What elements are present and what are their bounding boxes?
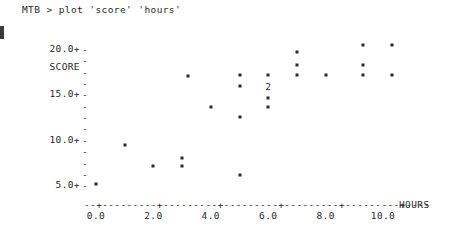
data-point bbox=[238, 73, 241, 76]
data-point bbox=[186, 74, 189, 77]
data-point bbox=[267, 73, 270, 76]
x-axis-line: --+---------+---------+---------+-------… bbox=[84, 199, 430, 210]
data-point bbox=[181, 164, 184, 167]
data-point bbox=[295, 73, 298, 76]
y-axis-title: SCORE bbox=[20, 61, 80, 72]
x-axis-tick-label: 0.0 bbox=[87, 210, 105, 221]
data-point bbox=[209, 105, 212, 108]
data-point-overlap: 2 bbox=[265, 82, 271, 92]
x-axis-tick-label: 8.0 bbox=[316, 210, 334, 221]
data-point bbox=[390, 43, 393, 46]
data-point bbox=[267, 105, 270, 108]
x-axis-tick-label: 4.0 bbox=[202, 210, 220, 221]
data-point bbox=[361, 43, 364, 46]
data-point bbox=[238, 84, 241, 87]
data-point bbox=[238, 173, 241, 176]
data-point bbox=[361, 63, 364, 66]
data-point bbox=[181, 156, 184, 159]
y-axis-minor-tick: - bbox=[82, 49, 88, 50]
data-point bbox=[324, 73, 327, 76]
data-point bbox=[295, 63, 298, 66]
x-axis-title: HOURS bbox=[399, 199, 430, 210]
scatter-plot: 20.0+15.0+10.0+5.0+SCORE-------------2--… bbox=[0, 0, 459, 233]
y-axis-minor-tick: - bbox=[82, 163, 88, 164]
y-axis-minor-tick: - bbox=[82, 140, 88, 141]
y-axis-minor-tick: - bbox=[82, 106, 88, 107]
data-point bbox=[267, 96, 270, 99]
y-axis-minor-tick: - bbox=[82, 94, 88, 95]
data-point bbox=[295, 51, 298, 54]
y-axis-minor-tick: - bbox=[82, 128, 88, 129]
data-point bbox=[123, 143, 126, 146]
y-axis-minor-tick: - bbox=[82, 117, 88, 118]
data-point bbox=[390, 73, 393, 76]
data-point bbox=[238, 115, 241, 118]
y-axis-minor-tick: - bbox=[82, 72, 88, 73]
data-point bbox=[95, 183, 98, 186]
x-axis-tick-label: 6.0 bbox=[259, 210, 277, 221]
data-point bbox=[361, 73, 364, 76]
x-axis-tick-label: 10.0 bbox=[371, 210, 395, 221]
y-axis-minor-tick: - bbox=[82, 151, 88, 152]
y-axis-minor-tick: - bbox=[82, 174, 88, 175]
y-axis-tick-label: 5.0+ bbox=[20, 179, 80, 190]
x-axis-tick-label: 2.0 bbox=[144, 210, 162, 221]
y-axis-minor-tick: - bbox=[82, 60, 88, 61]
y-axis-tick-label: 15.0+ bbox=[20, 88, 80, 99]
y-axis-tick-label: 10.0+ bbox=[20, 134, 80, 145]
y-axis-minor-tick: - bbox=[82, 185, 88, 186]
y-axis-tick-label: 20.0+ bbox=[20, 43, 80, 54]
data-point bbox=[152, 164, 155, 167]
minitab-plot-screenshot: MTB > plot 'score' 'hours' 20.0+15.0+10.… bbox=[0, 0, 459, 233]
y-axis-minor-tick: - bbox=[82, 83, 88, 84]
